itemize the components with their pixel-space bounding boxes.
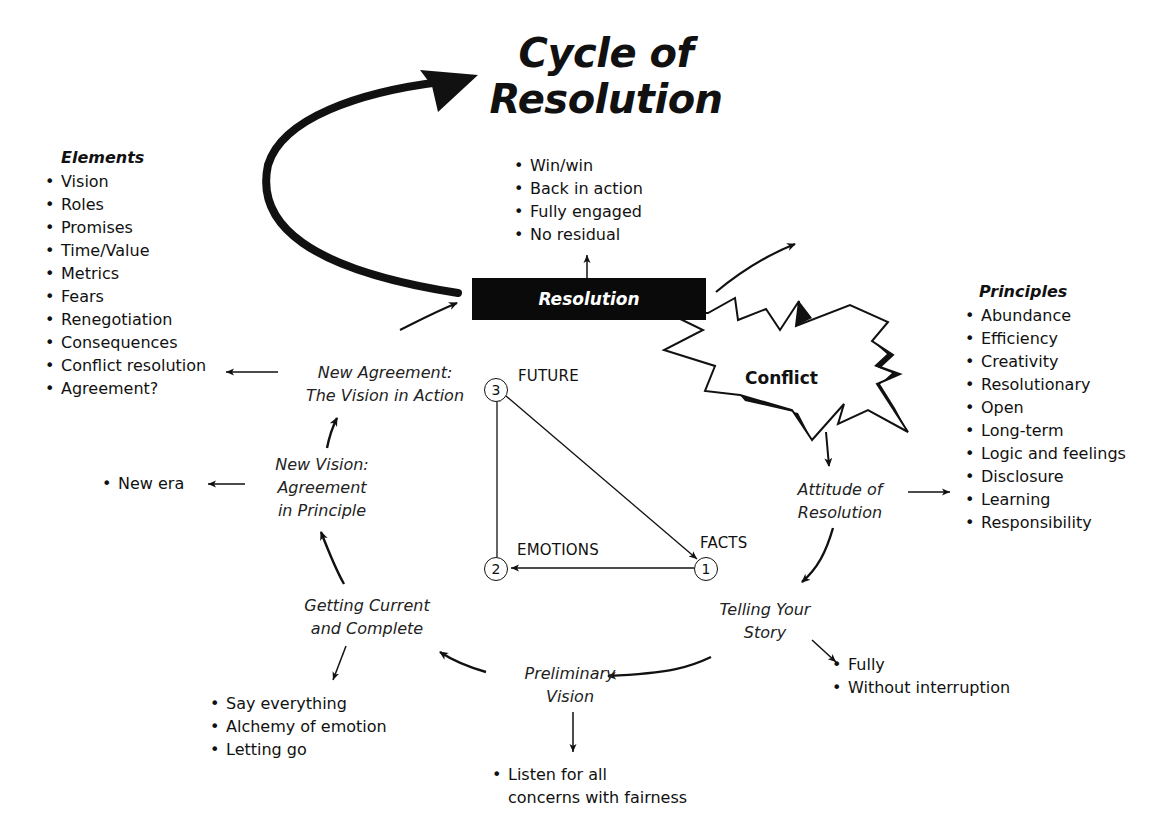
stage-line: New Agreement:: [290, 361, 480, 384]
stage-preliminary-vision: Preliminary Vision: [515, 662, 625, 708]
elements-heading: Elements: [61, 148, 206, 167]
element-item: Consequences: [43, 331, 206, 354]
element-item: Metrics: [43, 262, 206, 285]
preliminary-notes: • Listen for all concerns with fairness: [490, 763, 687, 809]
elements-panel: Elements Vision Roles Promises Time/Valu…: [43, 148, 206, 400]
note-line: concerns with fairness: [508, 786, 687, 809]
principle-item: Long-term: [963, 419, 1126, 442]
note-item: Alchemy of emotion: [208, 715, 387, 738]
outcome-item: No residual: [512, 223, 643, 246]
stage-telling-your-story: Telling Your Story: [710, 598, 820, 644]
triangle-node-emotions: 2: [484, 557, 508, 581]
elements-list: Vision Roles Promises Time/Value Metrics…: [43, 170, 206, 400]
stage-new-agreement: New Agreement: The Vision in Action: [290, 361, 480, 407]
stage-line: The Vision in Action: [290, 384, 480, 407]
big-cycle-arrow: [266, 70, 478, 293]
stage-line: in Principle: [262, 499, 382, 522]
note-line: Listen for all: [508, 763, 687, 786]
principle-item: Abundance: [963, 304, 1126, 327]
new-vision-notes-list: New era: [100, 472, 184, 495]
stage-line: and Complete: [292, 617, 442, 640]
element-item: Time/Value: [43, 239, 206, 262]
diagram-title: Cycle of Resolution: [476, 30, 736, 122]
principle-item: Open: [963, 396, 1126, 419]
title-line-2: Resolution: [476, 76, 736, 122]
stage-line: Resolution: [790, 501, 890, 524]
triangle-node-future: 3: [484, 378, 508, 402]
element-item: Roles: [43, 193, 206, 216]
stage-line: Getting Current: [292, 594, 442, 617]
element-item: Vision: [43, 170, 206, 193]
stage-line: Agreement: [262, 476, 382, 499]
note-item: Fully: [830, 653, 1010, 676]
outcome-item: Fully engaged: [512, 200, 643, 223]
principle-item: Responsibility: [963, 511, 1126, 534]
principles-list: Abundance Efficiency Creativity Resoluti…: [963, 304, 1126, 534]
note-item: Letting go: [208, 738, 387, 761]
principle-item: Efficiency: [963, 327, 1126, 350]
stage-line: Attitude of: [790, 478, 890, 501]
element-item: Conflict resolution: [43, 354, 206, 377]
element-item: Agreement?: [43, 377, 206, 400]
triangle-node-facts: 1: [694, 557, 718, 581]
stage-line: Story: [710, 621, 820, 644]
principle-item: Creativity: [963, 350, 1126, 373]
resolution-box: Resolution: [472, 278, 706, 320]
title-line-1: Cycle of: [476, 30, 736, 76]
emotions-label: EMOTIONS: [517, 541, 599, 559]
stage-line: Preliminary: [515, 662, 625, 685]
note-item: Say everything: [208, 692, 387, 715]
node-number: 2: [492, 561, 501, 577]
principle-item: Disclosure: [963, 465, 1126, 488]
principles-panel: Principles Abundance Efficiency Creativi…: [963, 282, 1126, 534]
node-number: 3: [492, 382, 501, 398]
future-label: FUTURE: [518, 367, 579, 385]
bullet: •: [492, 763, 501, 786]
resolution-outcomes-list: Win/win Back in action Fully engaged No …: [512, 154, 643, 246]
node-number: 1: [702, 561, 711, 577]
element-item: Fears: [43, 285, 206, 308]
stage-attitude-of-resolution: Attitude of Resolution: [790, 478, 890, 524]
element-item: Promises: [43, 216, 206, 239]
note-item: • Listen for all concerns with fairness: [490, 763, 687, 809]
principles-heading: Principles: [979, 282, 1126, 301]
telling-notes-list: Fully Without interruption: [830, 653, 1010, 699]
principle-item: Learning: [963, 488, 1126, 511]
getting-current-notes-list: Say everything Alchemy of emotion Lettin…: [208, 692, 387, 761]
outcome-item: Win/win: [512, 154, 643, 177]
element-item: Renegotiation: [43, 308, 206, 331]
principle-item: Resolutionary: [963, 373, 1126, 396]
stage-line: Telling Your: [710, 598, 820, 621]
stage-getting-current-and-complete: Getting Current and Complete: [292, 594, 442, 640]
outcome-item: Back in action: [512, 177, 643, 200]
resolution-label: Resolution: [538, 289, 639, 309]
conflict-label: Conflict: [745, 368, 818, 388]
note-item: Without interruption: [830, 676, 1010, 699]
note-item: New era: [100, 472, 184, 495]
stage-new-vision: New Vision: Agreement in Principle: [262, 453, 382, 522]
principle-item: Logic and feelings: [963, 442, 1126, 465]
stage-line: Vision: [515, 685, 625, 708]
stage-line: New Vision:: [262, 453, 382, 476]
facts-label: FACTS: [700, 534, 747, 552]
